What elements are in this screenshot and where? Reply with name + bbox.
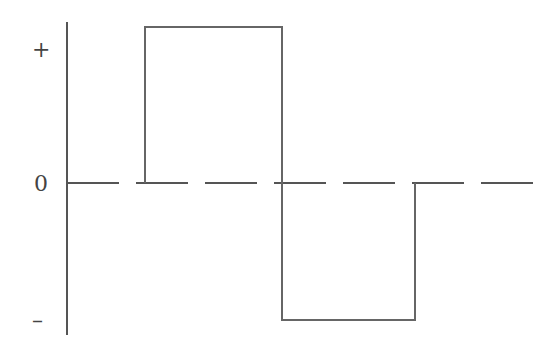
pulse-waveform xyxy=(145,27,415,320)
waveform-diagram: + 0 – xyxy=(0,0,553,350)
positive-label: + xyxy=(32,37,50,62)
negative-label: – xyxy=(32,308,43,333)
zero-label: 0 xyxy=(34,171,48,196)
